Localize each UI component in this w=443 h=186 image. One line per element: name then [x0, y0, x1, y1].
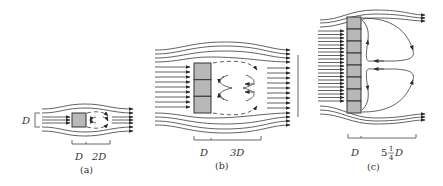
- dimension-c: D 5 1 4 D (c): [348, 134, 416, 172]
- svg-text:5: 5: [381, 147, 387, 158]
- caption-b: (b): [215, 160, 229, 171]
- dim-label-a-wake: 2D: [91, 151, 106, 162]
- height-label-a: D: [21, 115, 30, 126]
- panel-c: D 5 1 4 D (c): [298, 10, 425, 172]
- svg-text:D: D: [394, 147, 403, 158]
- wake-c: [362, 18, 413, 112]
- plate-c: [347, 17, 361, 113]
- dimension-b: D 3D (b): [194, 136, 261, 171]
- svg-text:4: 4: [389, 154, 394, 162]
- streamlines-a: [42, 104, 133, 136]
- plate-a: [72, 113, 86, 127]
- wake-b: [213, 61, 257, 114]
- flow-diagram: D D 2D (a): [0, 0, 443, 186]
- dim-label-b-plate: D: [199, 147, 208, 158]
- wake-a: [87, 112, 108, 128]
- streamlines-b: [155, 42, 290, 133]
- caption-a: (a): [80, 164, 93, 175]
- plate-b: [194, 63, 211, 113]
- dim-label-a-plate: D: [74, 151, 83, 162]
- dim-label-b-wake: 3D: [230, 147, 244, 158]
- dimension-a: D 2D (a): [72, 140, 110, 175]
- dim-label-c-plate: D: [350, 147, 359, 158]
- svg-text:1: 1: [389, 145, 393, 153]
- panel-a: D D 2D (a): [21, 104, 133, 175]
- inflow-arrows-c: [318, 31, 344, 101]
- caption-c: (c): [367, 161, 380, 172]
- dim-label-c-wake: 5 1 4 D: [381, 145, 403, 162]
- height-bracket-a: D: [21, 113, 40, 127]
- panel-b: D 3D (b): [155, 42, 290, 171]
